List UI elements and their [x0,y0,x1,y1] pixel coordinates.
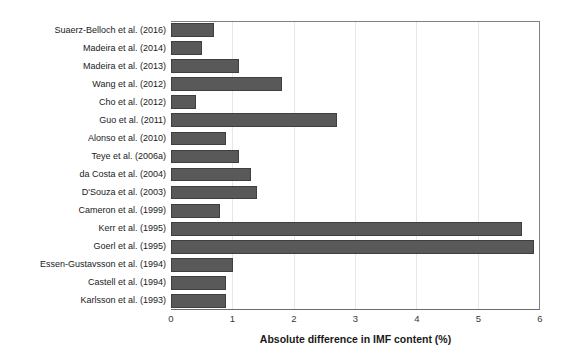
bar-track [171,202,540,220]
x-tick-label: 4 [414,314,419,324]
chart-row: Karlsson et al. (1993) [0,292,540,310]
x-tick-label: 1 [230,314,235,324]
chart-row: D'Souza et al. (2003) [0,184,540,202]
y-axis-label: Castell et al. (1994) [0,278,171,287]
y-axis-label: Madeira et al. (2014) [0,44,171,53]
x-tick-label: 6 [537,314,542,324]
y-axis-label: D'Souza et al. (2003) [0,188,171,197]
bar-track [171,111,540,129]
x-tick-label: 3 [353,314,358,324]
y-axis-label: Kerr et al. (1995) [0,224,171,233]
chart-row: Madeira et al. (2014) [0,39,540,57]
chart-row: da Costa et al. (2004) [0,166,540,184]
y-axis-label: Suaerz-Belloch et al. (2016) [0,26,171,35]
x-axis-ticks: 0123456 [171,314,540,327]
y-axis-label: Essen-Gustavsson et al. (1994) [0,260,171,269]
bar-track [171,75,540,93]
bar-track [171,220,540,238]
y-axis-label: Cho et al. (2012) [0,98,171,107]
bar-track [171,147,540,165]
bar-track [171,292,540,310]
bar-track [171,93,540,111]
bar-track [171,39,540,57]
bar [171,222,522,236]
bar [171,77,282,91]
bar [171,294,226,308]
bar [171,276,226,290]
bar [171,150,239,164]
bar-track [171,21,540,39]
bar [171,132,226,146]
bar [171,113,337,127]
y-axis-label: Madeira et al. (2013) [0,62,171,71]
chart-row: Castell et al. (1994) [0,274,540,292]
y-axis-label: Karlsson et al. (1993) [0,296,171,305]
chart-row: Guo et al. (2011) [0,111,540,129]
bar [171,168,251,182]
bar-track [171,274,540,292]
chart-row: Teye et al. (2006a) [0,147,540,165]
y-axis-label: Alonso et al. (2010) [0,134,171,143]
chart-row: Alonso et al. (2010) [0,129,540,147]
chart-row: Wang et al. (2012) [0,75,540,93]
bar [171,258,233,272]
y-axis-label: Guo et al. (2011) [0,116,171,125]
bar-track [171,184,540,202]
x-axis-title: Absolute difference in IMF content (%) [171,334,540,345]
chart-row: Cameron et al. (1999) [0,202,540,220]
bar [171,204,220,218]
x-tick-label: 5 [476,314,481,324]
chart-row: Madeira et al. (2013) [0,57,540,75]
y-axis-label: Wang et al. (2012) [0,80,171,89]
y-axis-label: Cameron et al. (1999) [0,206,171,215]
chart-row: Suaerz-Belloch et al. (2016) [0,21,540,39]
bar-rows: Suaerz-Belloch et al. (2016)Madeira et a… [0,21,540,310]
bar-track [171,238,540,256]
bar [171,23,214,37]
chart-row: Goerl et al. (1995) [0,238,540,256]
bar [171,240,534,254]
bar-track [171,166,540,184]
bar-track [171,129,540,147]
chart-row: Kerr et al. (1995) [0,220,540,238]
bar-track [171,256,540,274]
x-tick-label: 2 [291,314,296,324]
bar [171,95,196,109]
y-axis-label: Teye et al. (2006a) [0,152,171,161]
y-axis-label: da Costa et al. (2004) [0,170,171,179]
bar [171,186,257,200]
x-tick-label: 0 [168,314,173,324]
chart-row: Cho et al. (2012) [0,93,540,111]
bar-track [171,57,540,75]
bar [171,41,202,55]
imf-difference-bar-chart: Suaerz-Belloch et al. (2016)Madeira et a… [0,0,562,361]
chart-row: Essen-Gustavsson et al. (1994) [0,256,540,274]
bar [171,59,239,73]
y-axis-label: Goerl et al. (1995) [0,242,171,251]
